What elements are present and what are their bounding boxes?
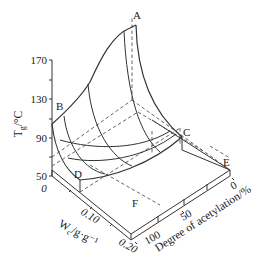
x-tick-0.20: 0.20 [117, 235, 140, 255]
label-E: E [223, 156, 230, 168]
label-D: D [74, 168, 82, 180]
z-tick-90: 90 [36, 132, 48, 144]
label-A: A [133, 9, 141, 21]
surface [52, 25, 230, 192]
label-F: F [132, 197, 138, 209]
point-labels: A B C D E F [56, 9, 230, 209]
z-axis: 170 130 90 50 0 Tg/°C [12, 54, 52, 194]
z-tick-50: 50 [36, 170, 48, 182]
z-tick-130: 130 [31, 93, 48, 105]
svg-text:Tg/°C: Tg/°C [12, 110, 27, 137]
label-B: B [56, 100, 63, 112]
label-C: C [183, 126, 190, 138]
chart-canvas: 170 130 90 50 0 Tg/°C [0, 0, 260, 263]
origin-tick: 0 [41, 182, 47, 194]
z-axis-title: Tg/°C [12, 110, 27, 137]
z-tick-170: 170 [31, 54, 48, 66]
surface-chart: 170 130 90 50 0 Tg/°C [0, 0, 260, 263]
